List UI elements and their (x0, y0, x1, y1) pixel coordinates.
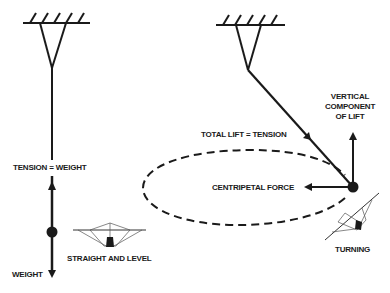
vertical-label-line1: VERTICAL (315, 92, 385, 102)
turning-label: TURNING (335, 245, 370, 255)
vertical-label-line2: COMPONENT (315, 102, 385, 112)
vertical-label-line3: OF LIFT (315, 112, 385, 122)
force-diagram (0, 0, 390, 293)
total-lift-tension-label: TOTAL LIFT = TENSION (201, 130, 287, 140)
tension-equals-weight-label: TENSION = WEIGHT (13, 163, 86, 173)
weight-label: WEIGHT (12, 270, 43, 280)
hang-glider-level-icon (73, 223, 146, 247)
right-mass-point (348, 182, 359, 193)
left-ceiling-anchor-icon (23, 13, 90, 68)
right-ceiling-anchor-icon (216, 15, 285, 70)
centripetal-force-label: CENTRIPETAL FORCE (212, 183, 294, 193)
left-mass-point (47, 227, 58, 238)
straight-and-level-label: STRAIGHT AND LEVEL (67, 254, 152, 264)
tension-arrow-icon (48, 181, 56, 190)
vertical-component-label: VERTICAL COMPONENT OF LIFT (315, 92, 385, 122)
hang-glider-banked-icon (325, 193, 379, 240)
